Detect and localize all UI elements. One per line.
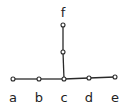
node-d <box>87 76 91 80</box>
label-b: b <box>35 90 43 105</box>
labels: a b c d e f <box>9 5 119 105</box>
label-d: d <box>85 90 93 105</box>
label-a: a <box>9 90 17 105</box>
node-e <box>113 75 117 79</box>
edge-c-d <box>64 78 89 79</box>
graph-diagram: a b c d e f <box>0 0 126 109</box>
node-b <box>37 77 41 81</box>
edge-d-e <box>89 77 115 78</box>
node-c <box>62 77 66 81</box>
node-a <box>11 77 15 81</box>
label-e: e <box>111 90 119 105</box>
node-middle <box>61 50 65 54</box>
node-f <box>61 23 65 27</box>
label-f: f <box>61 5 66 20</box>
edge-c-m <box>63 52 64 79</box>
label-c: c <box>60 90 67 105</box>
